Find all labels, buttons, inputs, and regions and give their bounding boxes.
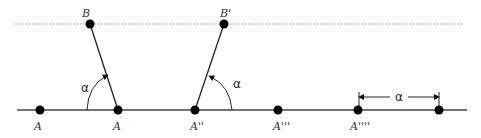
angle-arc-1: [87, 76, 106, 110]
point-a2: [191, 106, 200, 115]
label-a3: A''': [272, 120, 290, 133]
angle-label-1: α: [81, 81, 89, 95]
segment-a1-b: [90, 24, 118, 110]
label-a4: A'''': [349, 120, 370, 133]
label-a1: A: [112, 120, 121, 133]
segment-a2-b1: [195, 24, 224, 110]
label-a2: A'': [189, 120, 204, 133]
label-b: B: [81, 7, 90, 20]
point-a5: [435, 106, 444, 115]
point-a3: [274, 106, 283, 115]
point-a4: [354, 106, 363, 115]
diagram-canvas: A A A'' A''' A'''' B B' α α α: [0, 0, 481, 138]
point-a1: [114, 106, 123, 115]
angle-arc-2: [211, 77, 232, 110]
angle-label-2: α: [233, 77, 241, 91]
label-b1: B': [219, 7, 231, 20]
point-b: [86, 20, 95, 29]
point-b1: [220, 20, 229, 29]
point-a: [36, 106, 45, 115]
dimension-label: α: [395, 90, 403, 104]
label-a: A: [33, 120, 42, 133]
